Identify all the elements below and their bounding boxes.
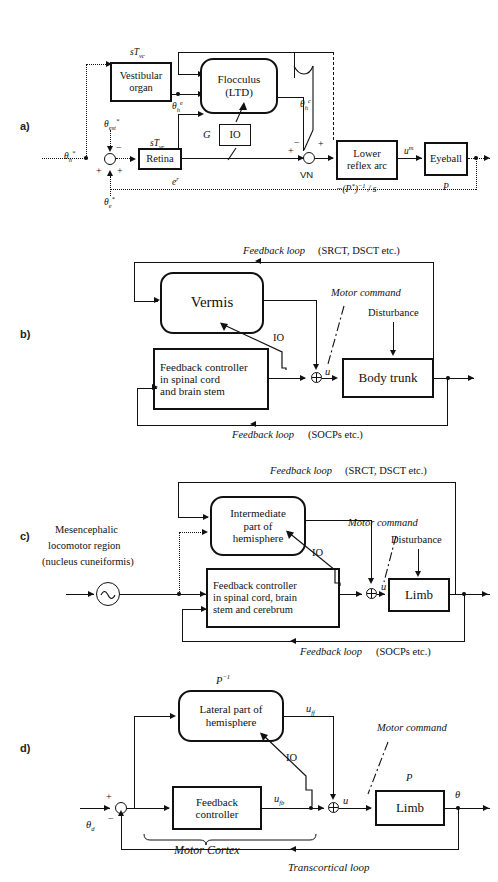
arrow-eyeball-out	[484, 155, 490, 161]
line-fb-bottom-riser-b	[447, 378, 448, 426]
arrow-fb-into-ctrl-b	[152, 384, 158, 390]
arrow-sum-limb-c	[379, 591, 385, 597]
arrow-fb-into-ctrl-c	[201, 606, 207, 612]
arrow-fb-bottom-b	[250, 421, 256, 427]
label-transcortical-loop: Transcortical loop	[288, 862, 370, 873]
label-fb-bottom-rest-c: (SOCPs etc.)	[376, 647, 431, 658]
line-fb-bottom-up-b	[137, 388, 138, 426]
arrow-fb-bottom-c	[290, 638, 296, 644]
label-motor-cortex: Motor Cortex	[174, 844, 240, 856]
label-fb-bottom-b: Feedback loop	[232, 430, 294, 441]
arrow-disturbance-b	[390, 350, 396, 356]
label-u-m: um	[404, 145, 413, 157]
line-fb-bottom-rail-c	[182, 641, 465, 642]
panel-c: c) Feedback loop (SRCT, DSCT etc.) Inter…	[0, 458, 498, 668]
arrow-lower-eyeball	[416, 155, 422, 161]
block-lower-reflex-arc: Lower reflex arc	[336, 140, 398, 180]
label-disturbance-c: Disturbance	[391, 535, 442, 546]
motor-command-pointer-c	[0, 458, 498, 668]
dotted-feedback-a	[110, 189, 476, 190]
arrow-limb-out-c	[482, 591, 488, 597]
panel-a: a) sTvc Vestibular organ θhe Flocculus (…	[0, 0, 498, 215]
block-eyeball: Eyeball	[424, 142, 468, 176]
arrow-vn-lower	[328, 155, 334, 161]
dotted-out-drop	[476, 158, 477, 190]
arrow-disturbance-c	[415, 571, 421, 577]
motor-cortex-brace	[0, 668, 498, 882]
arrow-sum-trunk-b	[332, 375, 338, 381]
line-fb-bottom-up-c	[182, 609, 183, 642]
block-limb-c: Limb	[388, 578, 450, 612]
label-plant-P-a: P	[443, 183, 449, 193]
arrow-trunk-out-b	[468, 375, 474, 381]
label-disturbance-b: Disturbance	[368, 308, 419, 319]
line-fb-bottom-riser-c	[464, 594, 465, 642]
panel-b: b) Feedback loop (SRCT, DSCT etc.) Vermi…	[0, 240, 498, 440]
label-fb-bottom-c: Feedback loop	[300, 647, 362, 658]
label-fb-bottom-rest-b: (SOCPs etc.)	[308, 430, 363, 441]
line-fb-bottom-rail-b	[137, 425, 448, 426]
block-body-trunk: Body trunk	[342, 358, 434, 398]
panel-d: d) P−1 Lateral part of hemisphere uff IO…	[0, 668, 498, 882]
theta-hc-branch	[0, 0, 498, 215]
motor-command-pointer-b	[0, 240, 498, 440]
